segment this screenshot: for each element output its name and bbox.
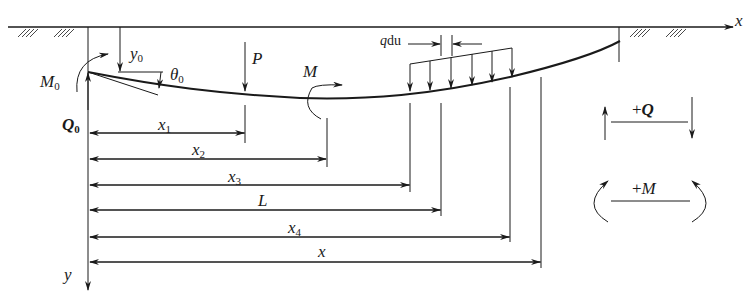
theta0-sub: 0 xyxy=(178,73,184,85)
soil-hatch-left-icon xyxy=(18,29,74,37)
dim-x4-sub: 4 xyxy=(296,226,302,238)
q-text: q xyxy=(380,33,387,48)
sign-q-symbol: Q xyxy=(642,100,654,119)
rotation-theta0-arrow xyxy=(159,72,161,88)
m0-sub: 0 xyxy=(54,80,60,92)
q0-base: Q xyxy=(62,115,74,134)
dim-x-base: x xyxy=(318,242,326,261)
dim-x4: x4 xyxy=(288,219,301,238)
dim-x1-base: x xyxy=(158,115,166,134)
distributed-load xyxy=(410,48,512,91)
m0-base: M xyxy=(40,72,54,91)
pile-deflection-curve xyxy=(88,41,620,98)
x-axis-text: x xyxy=(735,11,743,30)
y0-sub: 0 xyxy=(138,52,144,64)
diagram-canvas xyxy=(0,0,748,299)
sign-m-label: +M xyxy=(632,180,656,197)
y0-base: y xyxy=(130,44,138,63)
dim-x2-sub: 2 xyxy=(200,148,206,160)
sign-m-symbol: M xyxy=(642,179,656,198)
dim-x3-base: x xyxy=(228,167,236,186)
label-qdu: qdu xyxy=(380,34,401,48)
label-m: M xyxy=(303,63,317,80)
dim-l: L xyxy=(258,192,267,209)
m-text: M xyxy=(303,62,317,81)
x-axis-label: x xyxy=(735,12,743,29)
sign-m-right-arrow xyxy=(692,181,706,222)
label-y0: y0 xyxy=(130,45,143,64)
dim-x4-base: x xyxy=(288,218,296,237)
dim-x2-base: x xyxy=(192,140,200,159)
moment-m-arrow xyxy=(308,85,342,119)
sign-q-plus: + xyxy=(632,100,642,119)
dim-x1-sub: 1 xyxy=(166,123,172,135)
du-text: du xyxy=(387,33,401,48)
dim-l-base: L xyxy=(258,191,267,210)
label-m0: M0 xyxy=(40,73,60,92)
sign-m-left-arrow xyxy=(594,181,608,222)
soil-hatch-right-icon xyxy=(630,29,686,37)
dim-x1: x1 xyxy=(158,116,171,135)
dimension-lines xyxy=(90,133,541,262)
dim-x2: x2 xyxy=(192,141,205,160)
label-theta0: θ0 xyxy=(170,66,184,85)
q0-sub: 0 xyxy=(74,123,80,135)
y-axis-text: y xyxy=(64,265,72,284)
label-q0: Q0 xyxy=(62,116,80,135)
sign-m-plus: + xyxy=(632,179,642,198)
dim-x3-sub: 3 xyxy=(236,175,242,187)
label-p: P xyxy=(252,50,262,67)
y-axis-label: y xyxy=(64,266,72,283)
sign-q-label: +Q xyxy=(632,101,654,118)
dim-x: x xyxy=(318,243,326,260)
p-text: P xyxy=(252,49,262,68)
dim-x3: x3 xyxy=(228,168,241,187)
